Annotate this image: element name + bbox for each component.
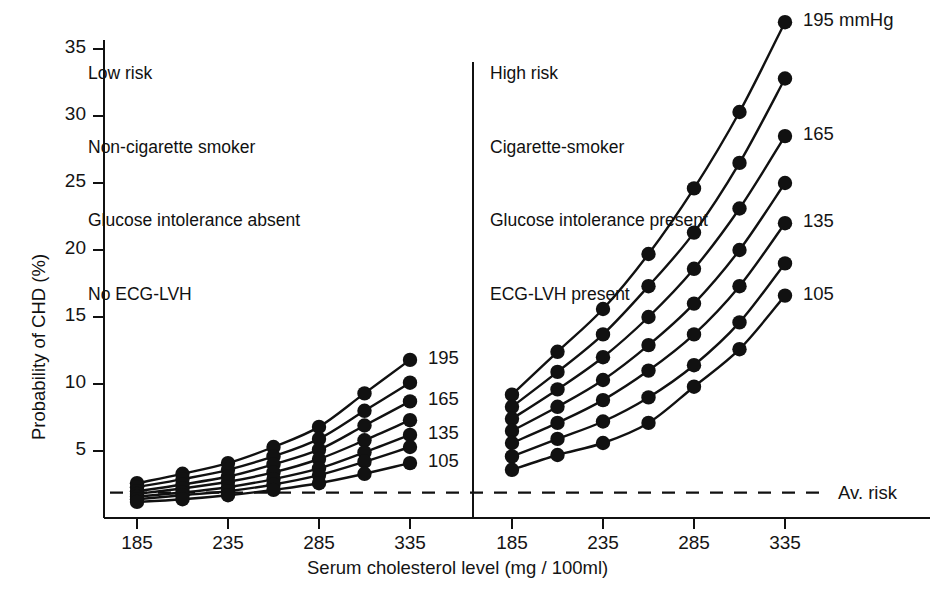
data-point-panel1-sbp-165-x210: [550, 382, 564, 396]
y-tick-label-20: 20: [65, 237, 86, 259]
x-tick-label-335-panel1: 335: [769, 532, 801, 554]
series-end-label-panel1-195: 195 mmHg: [803, 9, 893, 31]
y-tick-label-10: 10: [65, 371, 86, 393]
data-point-panel1-sbp-165-x310: [732, 201, 746, 215]
data-point-panel1-sbp-165-x335: [778, 129, 792, 143]
data-point-panel1-sbp-105-x335: [778, 288, 792, 302]
data-point-panel1-sbp-120-x235: [596, 414, 610, 428]
series-end-label-panel0-165: 165: [428, 388, 459, 410]
right-annotation-line-2: Cigarette-smoker: [490, 135, 708, 160]
data-point-panel1-sbp-120-x310: [732, 315, 746, 329]
y-tick-label-15: 15: [65, 304, 86, 326]
y-axis-title: Probability of CHD (%): [28, 254, 50, 440]
data-point-panel1-sbp-195-x310: [732, 105, 746, 119]
x-tick-label-285-panel1: 285: [678, 532, 710, 554]
y-tick-label-35: 35: [65, 36, 86, 58]
data-point-panel1-sbp-135-x335: [778, 216, 792, 230]
x-axis-title: Serum cholesterol level (mg / 100ml): [307, 557, 608, 579]
data-point-panel1-sbp-120-x285: [687, 358, 701, 372]
data-point-panel1-sbp-120-x210: [550, 432, 564, 446]
data-point-panel1-sbp-150-x335: [778, 176, 792, 190]
data-point-panel0-sbp-165-x335: [403, 394, 417, 408]
series-end-label-panel0-135: 135: [428, 422, 459, 444]
data-point-panel0-sbp-105-x310: [357, 467, 371, 481]
left-annotation-line-3: Glucose intolerance absent: [88, 208, 300, 233]
x-tick-label-235-panel1: 235: [587, 532, 619, 554]
y-tick-label-5: 5: [75, 438, 86, 460]
data-point-panel1-sbp-105-x260: [641, 416, 655, 430]
data-point-panel0-sbp-195-x310: [357, 386, 371, 400]
data-point-panel0-sbp-105-x235: [221, 488, 235, 502]
data-point-panel0-sbp-185-x310: [357, 404, 371, 418]
y-tick-label-30: 30: [65, 103, 86, 125]
series-end-label-panel1-135: 135: [803, 210, 834, 232]
right-annotation-line-4: ECG-LVH present: [490, 282, 708, 307]
data-point-panel1-sbp-105-x210: [550, 448, 564, 462]
left-annotation-line-4: No ECG-LVH: [88, 282, 300, 307]
right-panel-annotation: High risk Cigarette-smoker Glucose intol…: [490, 12, 708, 355]
data-point-panel1-sbp-135-x260: [641, 363, 655, 377]
data-point-panel1-sbp-150-x235: [596, 373, 610, 387]
y-tick-label-25: 25: [65, 170, 86, 192]
left-panel-annotation: Low risk Non-cigarette smoker Glucose in…: [88, 12, 300, 355]
data-point-panel1-sbp-105-x285: [687, 380, 701, 394]
data-point-panel1-sbp-105-x310: [732, 342, 746, 356]
data-point-panel0-sbp-150-x335: [403, 413, 417, 427]
data-point-panel1-sbp-135-x310: [732, 279, 746, 293]
data-point-panel0-sbp-105-x185: [130, 495, 144, 509]
data-point-panel1-sbp-150-x210: [550, 400, 564, 414]
data-point-panel0-sbp-120-x335: [403, 440, 417, 454]
x-tick-label-235-panel0: 235: [212, 532, 244, 554]
data-point-panel0-sbp-105-x285: [312, 476, 326, 490]
series-end-label-panel0-105: 105: [428, 450, 459, 472]
data-point-panel1-sbp-120-x260: [641, 390, 655, 404]
data-point-panel1-sbp-185-x210: [550, 365, 564, 379]
series-end-label-panel1-105: 105: [803, 283, 834, 305]
series-end-label-panel0-195: 195: [428, 347, 459, 369]
series-end-label-panel1-165: 165: [803, 123, 834, 145]
right-annotation-line-1: High risk: [490, 61, 708, 86]
data-point-panel1-sbp-105-x185: [505, 463, 519, 477]
x-tick-label-185-panel1: 185: [496, 532, 528, 554]
data-point-panel1-sbp-185-x335: [778, 71, 792, 85]
data-point-panel1-sbp-135-x185: [505, 436, 519, 450]
x-tick-label-335-panel0: 335: [394, 532, 426, 554]
data-point-panel1-sbp-105-x235: [596, 436, 610, 450]
data-point-panel0-sbp-105-x335: [403, 456, 417, 470]
data-point-panel0-sbp-105-x260: [266, 483, 280, 497]
data-point-panel0-sbp-195-x335: [403, 353, 417, 367]
data-point-panel1-sbp-185-x310: [732, 156, 746, 170]
left-annotation-line-1: Low risk: [88, 61, 300, 86]
data-point-panel1-sbp-195-x335: [778, 15, 792, 29]
data-point-panel0-sbp-105-x210: [175, 492, 189, 506]
data-point-panel1-sbp-120-x335: [778, 256, 792, 270]
data-point-panel1-sbp-135-x235: [596, 393, 610, 407]
data-point-panel1-sbp-150-x310: [732, 243, 746, 257]
data-point-panel0-sbp-165-x310: [357, 418, 371, 432]
x-tick-label-285-panel0: 285: [303, 532, 335, 554]
average-risk-label: Av. risk: [838, 482, 897, 504]
right-annotation-line-3: Glucose intolerance present: [490, 208, 708, 233]
x-tick-label-185-panel0: 185: [121, 532, 153, 554]
data-point-panel1-sbp-120-x185: [505, 449, 519, 463]
chd-probability-chart: Low risk Non-cigarette smoker Glucose in…: [0, 0, 938, 602]
data-point-panel1-sbp-135-x210: [550, 416, 564, 430]
data-point-panel0-sbp-185-x335: [403, 376, 417, 390]
left-annotation-line-2: Non-cigarette smoker: [88, 135, 300, 160]
